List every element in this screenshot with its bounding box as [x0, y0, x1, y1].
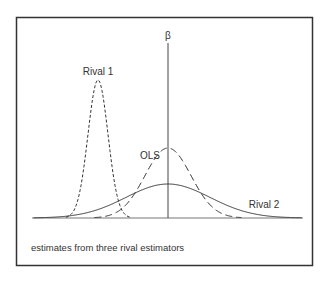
rival1-label: Rival 1	[83, 66, 114, 77]
frame-border	[17, 18, 313, 266]
ols-label: OLS	[140, 150, 160, 161]
estimator-distribution-diagram: β Rival 1 OLS Rival 2 estimates from thr…	[0, 0, 329, 281]
caption: estimates from three rival estimators	[31, 242, 184, 253]
beta-label: β	[165, 30, 171, 41]
rival1-curve	[66, 80, 130, 217]
rival2-label: Rival 2	[249, 199, 280, 210]
